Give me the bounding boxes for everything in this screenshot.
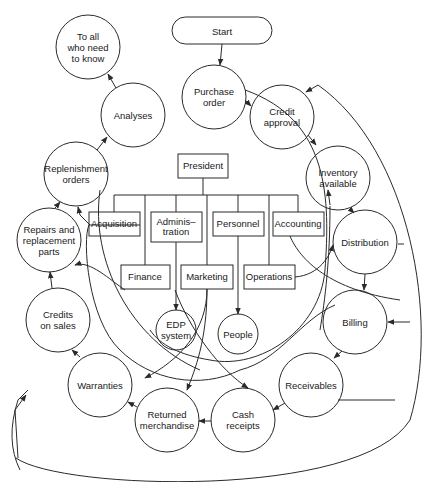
president-label: President: [183, 161, 223, 171]
replenishment-orders-label: Replenishment orders: [44, 163, 107, 185]
administration-label: Adminis– tration: [156, 217, 195, 237]
accounting-label: Accounting: [274, 219, 321, 229]
purchase-order-label: Purchase order: [194, 86, 234, 108]
billing-label: Billing: [342, 317, 367, 328]
people-label: People: [223, 329, 253, 340]
inventory-available-label: Inventory available: [318, 167, 357, 189]
to-all-label: To all who need to know: [67, 31, 108, 64]
receivables-label: Receivables: [285, 380, 337, 391]
personnel-label: Personnel: [217, 219, 260, 229]
repairs-label: Repairs and replacement parts: [23, 224, 75, 257]
credit-approval-label: Credit approval: [264, 106, 300, 128]
analyses-label: Analyses: [114, 110, 153, 121]
finance-label: Finance: [128, 272, 162, 282]
distribution-label: Distribution: [341, 237, 389, 248]
returned-merchandise-label: Returned merchandise: [140, 409, 194, 431]
marketing-label: Marketing: [186, 272, 228, 282]
credits-on-sales-label: Credits on sales: [40, 309, 75, 331]
warranties-label: Warranties: [77, 380, 123, 391]
operations-label: Operations: [246, 272, 292, 282]
cash-receipts-label: Cash receipts: [226, 409, 259, 431]
edp-system-label: EDP system: [161, 319, 191, 341]
acquisition-label: Acquisition: [91, 219, 137, 229]
start-label: Start: [212, 26, 232, 37]
